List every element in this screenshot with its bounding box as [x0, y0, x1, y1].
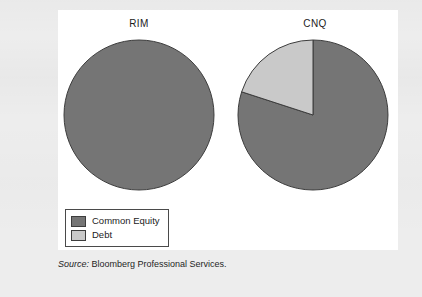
legend-swatch-debt [71, 230, 86, 241]
legend-label-common-equity: Common Equity [92, 216, 160, 226]
legend: Common Equity Debt [65, 209, 169, 247]
figure-root: RIM CNQ Common Equity Debt Source [0, 0, 422, 297]
legend-label-debt: Debt [92, 230, 112, 240]
pie-title-rim: RIM [58, 18, 220, 29]
pie-cnq-svg [237, 39, 389, 191]
source-value: Bloomberg Professional Services. [89, 259, 227, 269]
chart-panel: RIM CNQ Common Equity Debt [58, 10, 398, 250]
pie-rim-svg [63, 39, 215, 191]
pie-chart-cnq [237, 39, 389, 191]
pie-title-cnq: CNQ [234, 18, 396, 29]
legend-item-debt: Debt [71, 228, 160, 242]
source-note: Source: Bloomberg Professional Services. [58, 259, 227, 269]
source-label: Source: [58, 259, 89, 269]
legend-item-common-equity: Common Equity [71, 214, 160, 228]
legend-swatch-common-equity [71, 216, 86, 227]
pie-chart-rim [63, 39, 215, 191]
pie-slice-rim-common-equity [64, 40, 214, 190]
